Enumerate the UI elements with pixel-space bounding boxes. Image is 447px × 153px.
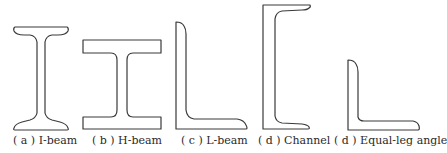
equal-leg-angle-shape [348, 60, 419, 130]
caption-channel: ( d ) Channel [258, 134, 330, 147]
channel-shape [263, 5, 310, 129]
l-beam-shape [176, 22, 247, 129]
caption-l-beam: ( c ) L-beam [181, 134, 248, 147]
caption-h-beam: ( b ) H-beam [92, 134, 162, 147]
caption-i-beam: ( a ) I-beam [13, 134, 77, 147]
caption-equal-leg-angle: ( d ) Equal-leg angle [334, 134, 447, 147]
h-beam-shape [83, 40, 161, 129]
i-beam-shape [14, 27, 69, 130]
